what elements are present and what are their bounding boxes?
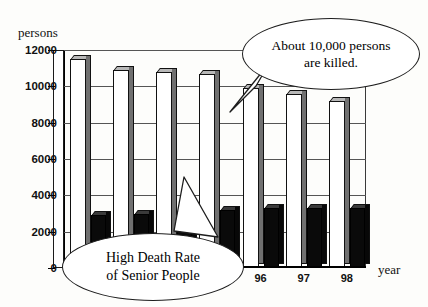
bar-front-face: [350, 208, 365, 268]
y-axis-tick-label: 2000: [31, 226, 57, 238]
x-axis-tick-label-96: 96: [254, 272, 266, 284]
y-axis-tick-label: 12000: [25, 44, 57, 56]
bar-senior-98: [350, 208, 365, 268]
callout-bottom-line1: High Death Rate: [106, 250, 200, 265]
bar-side-face: [322, 204, 327, 264]
callout-high-death-rate: High Death Rate of Senior People: [62, 233, 244, 301]
y-axis-title: persons: [18, 25, 58, 41]
y-axis-tick-label: 4000: [31, 189, 57, 201]
callout-bottom-line2: of Senior People: [106, 268, 199, 283]
y-axis-tick-label: 8000: [31, 117, 57, 129]
bar-total-98: [329, 101, 345, 268]
chart-canvas: persons year 020004000600080001000012000…: [0, 0, 428, 307]
callout-about-10000: About 10,000 persons are killed.: [242, 18, 420, 90]
callout-top-line1: About 10,000 persons: [272, 38, 391, 53]
x-axis-title: year: [378, 262, 400, 278]
y-axis-tick-label: 0: [51, 262, 57, 274]
bar-front-face: [70, 59, 86, 268]
bar-front-face: [329, 101, 345, 268]
y-axis-tick-label: 10000: [25, 80, 57, 92]
y-axis-tick-label: 6000: [31, 153, 57, 165]
callout-top-line2: are killed.: [304, 55, 358, 70]
x-axis-tick-label-97: 97: [298, 272, 310, 284]
bar-side-face: [365, 204, 370, 264]
bar-senior-97: [307, 208, 322, 268]
x-axis-tick-label-98: 98: [341, 272, 353, 284]
bar-total-92: [70, 59, 86, 268]
bar-front-face: [307, 208, 322, 268]
